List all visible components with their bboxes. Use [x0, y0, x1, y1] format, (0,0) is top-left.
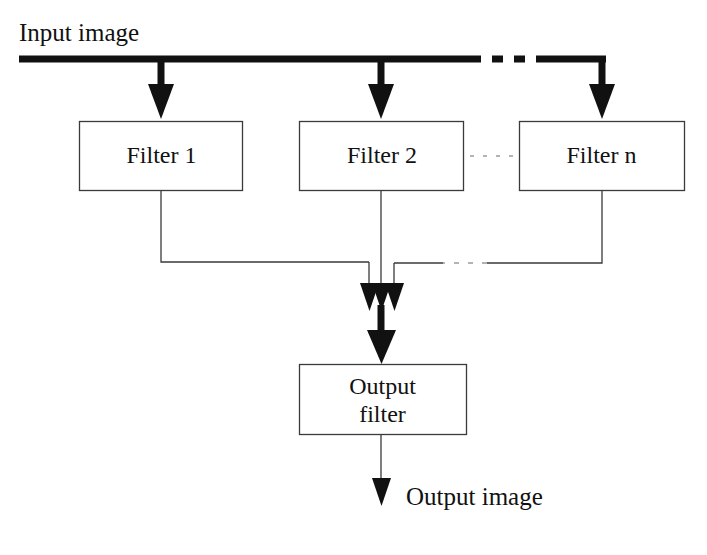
- filter-bank-diagram: Input image Filter 1 Filter 2 Filter n O…: [0, 0, 707, 555]
- filter-1-node[interactable]: [79, 121, 243, 191]
- output-image-label: Output image: [406, 484, 543, 509]
- output-filter-node[interactable]: [299, 364, 467, 435]
- output-filter-input-arrow: [367, 305, 396, 364]
- filter-n-node[interactable]: [519, 121, 685, 191]
- output-image-arrow: [372, 435, 391, 506]
- converge-arrowhead-right: [385, 283, 404, 311]
- diagram-canvas: [0, 0, 707, 555]
- input-branch-arrow-n: [589, 59, 615, 119]
- input-branch-arrow-2: [368, 59, 394, 119]
- filter-n-output-wire: [487, 191, 602, 263]
- filter-2-node[interactable]: [299, 121, 464, 191]
- input-branch-arrow-1: [148, 59, 174, 119]
- input-image-label: Input image: [19, 20, 139, 45]
- filter-1-output-wire: [161, 191, 369, 262]
